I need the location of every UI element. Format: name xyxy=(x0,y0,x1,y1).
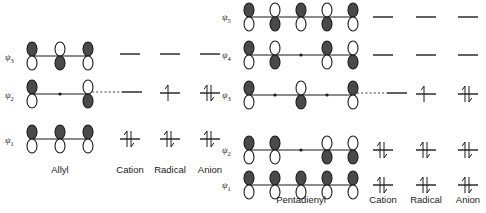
allyl-caption-anion: Anion xyxy=(184,164,236,175)
pentadienyl-level-psi5-anion xyxy=(456,12,480,22)
allyl-level-psi2-radical xyxy=(158,82,182,104)
pentadienyl-caption-anion: Anion xyxy=(442,194,486,205)
pentadienyl-level-psi3-radical xyxy=(414,83,438,105)
pentadienyl-level-psi1-radical xyxy=(414,174,438,196)
pentadienyl-level-psi1-cation xyxy=(371,174,395,196)
pentadienyl-level-psi2-anion xyxy=(456,139,480,161)
pentadienyl-orbital-label-psi2: ψ2 xyxy=(222,145,231,157)
pentadienyl-orbital-psi4 xyxy=(241,40,361,70)
pentadienyl-orbital-psi2 xyxy=(241,135,361,165)
pentadienyl-orbital-label-psi3: ψ3 xyxy=(222,90,231,102)
allyl-level-psi3-anion xyxy=(198,49,222,59)
pentadienyl-orbital-label-psi5: ψ5 xyxy=(222,12,231,24)
allyl-connector-psi2 xyxy=(92,87,144,97)
allyl-system-caption: Allyl xyxy=(34,164,86,175)
allyl-orbital-label-psi1: ψ1 xyxy=(5,135,14,147)
allyl-orbital-psi2 xyxy=(24,79,96,109)
pentadienyl-level-psi5-radical xyxy=(414,12,438,22)
pentadienyl-orbital-label-psi1: ψ1 xyxy=(222,180,231,192)
allyl-orbital-label-psi2: ψ2 xyxy=(5,90,14,102)
pentadienyl-orbital-psi5 xyxy=(241,2,361,32)
pentadienyl-level-psi5-cation xyxy=(371,12,395,22)
pentadienyl-level-psi2-cation xyxy=(371,139,395,161)
pentadienyl-level-psi3-anion xyxy=(456,83,480,105)
pentadienyl-level-psi1-anion xyxy=(456,174,480,196)
mo-diagram-figure: ψ3 ψ2 xyxy=(0,0,486,213)
pentadienyl-orbital-psi3 xyxy=(241,80,361,110)
pentadienyl-level-psi2-radical xyxy=(414,139,438,161)
allyl-level-psi3-radical xyxy=(158,49,182,59)
pentadienyl-level-psi4-anion xyxy=(456,50,480,60)
allyl-level-psi3-cation xyxy=(118,49,142,59)
allyl-level-psi1-cation xyxy=(118,128,142,150)
pentadienyl-level-psi4-cation xyxy=(371,50,395,60)
allyl-level-psi1-radical xyxy=(158,128,182,150)
allyl-level-psi2-anion xyxy=(198,82,222,104)
allyl-orbital-psi1 xyxy=(24,124,96,154)
allyl-orbital-label-psi3: ψ3 xyxy=(5,52,14,64)
pentadienyl-connector-psi3 xyxy=(357,88,409,98)
pentadienyl-system-caption: Pentadienyl xyxy=(267,194,335,205)
allyl-orbital-psi3 xyxy=(24,41,96,71)
pentadienyl-level-psi4-radical xyxy=(414,50,438,60)
allyl-level-psi1-anion xyxy=(198,128,222,150)
pentadienyl-orbital-label-psi4: ψ4 xyxy=(222,50,231,62)
